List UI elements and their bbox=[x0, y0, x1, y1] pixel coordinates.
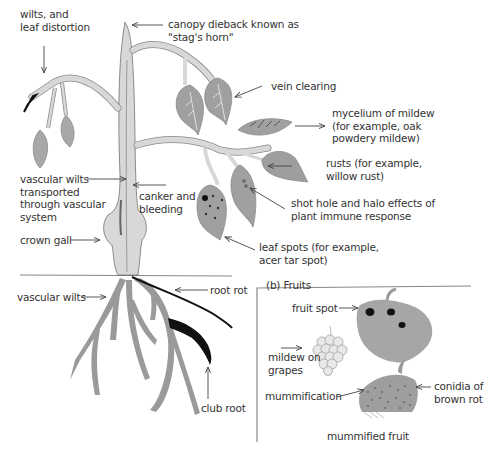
label-vascular-wilts-root: vascular wilts bbox=[17, 291, 86, 304]
label-line: leaf distortion bbox=[20, 21, 90, 34]
label-fruit-spot: fruit spot bbox=[292, 302, 338, 315]
spotted-fruit bbox=[357, 289, 433, 363]
lower-branch bbox=[137, 119, 308, 240]
label-rusts: rusts (for example, willow rust) bbox=[326, 157, 422, 182]
label-line: leaf spots (for example, bbox=[259, 241, 379, 254]
plant-disease-illustration bbox=[0, 0, 494, 455]
label-line: mildew on bbox=[268, 351, 320, 364]
label-line: plant immune response bbox=[291, 210, 435, 223]
label-shot-hole: shot hole and halo effects of plant immu… bbox=[291, 197, 435, 222]
label-mummified-fruit: mummified fruit bbox=[327, 430, 409, 443]
label-line: grapes bbox=[268, 364, 320, 377]
label-line: powdery mildew) bbox=[332, 132, 434, 145]
label-line: rusts (for example, bbox=[326, 157, 422, 170]
label-crown-gall: crown gall bbox=[20, 234, 72, 247]
label-line: (for example, oak bbox=[332, 120, 434, 133]
label-line: "stag's horn" bbox=[168, 31, 299, 44]
label-mildew-on-grapes: mildew on grapes bbox=[268, 351, 320, 376]
ground-line bbox=[20, 275, 232, 276]
label-line: acer tar spot) bbox=[259, 254, 379, 267]
label-wilts: wilts, and leaf distortion bbox=[20, 8, 90, 33]
label-conidia: conidia of brown rot bbox=[434, 380, 483, 405]
label-line: system bbox=[20, 211, 106, 224]
mummified-fruit bbox=[359, 360, 418, 418]
label-line: shot hole and halo effects of bbox=[291, 197, 435, 210]
label-leaf-spots: leaf spots (for example, acer tar spot) bbox=[259, 241, 379, 266]
fruits-panel-title: (b) Fruits bbox=[266, 279, 311, 292]
plant-stem bbox=[104, 22, 147, 275]
label-line: through vascular bbox=[20, 198, 106, 211]
label-line: willow rust) bbox=[326, 170, 422, 183]
label-line: bleeding bbox=[139, 203, 195, 216]
label-line: conidia of bbox=[434, 380, 483, 393]
label-root-rot: root rot bbox=[210, 284, 247, 297]
label-canopy-dieback: canopy dieback known as "stag's horn" bbox=[168, 18, 299, 43]
label-vascular-wilts-transported: vascular wilts transported through vascu… bbox=[20, 173, 106, 223]
upper-branch bbox=[133, 45, 232, 135]
label-mycelium: mycelium of mildew (for example, oak pow… bbox=[332, 107, 434, 145]
label-line: transported bbox=[20, 186, 106, 199]
label-canker: canker and bleeding bbox=[139, 190, 195, 215]
label-line: canopy dieback known as bbox=[168, 18, 299, 31]
label-line: wilts, and bbox=[20, 8, 90, 21]
label-club-root: club root bbox=[201, 402, 246, 415]
label-line: brown rot bbox=[434, 393, 483, 406]
label-vein-clearing: vein clearing bbox=[271, 80, 336, 93]
wilted-branch bbox=[24, 78, 118, 168]
label-line: canker and bbox=[139, 190, 195, 203]
label-line: vascular wilts bbox=[20, 173, 106, 186]
label-mummification: mummification bbox=[265, 390, 342, 403]
label-line: mycelium of mildew bbox=[332, 107, 434, 120]
